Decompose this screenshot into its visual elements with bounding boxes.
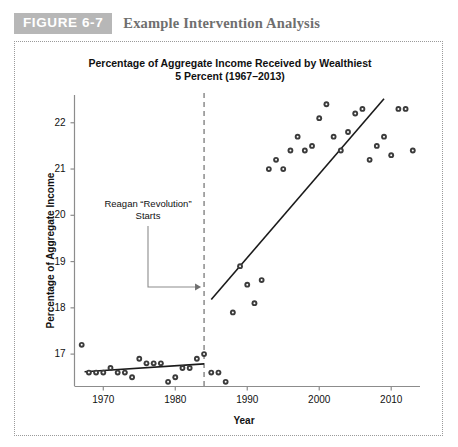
x-tick-label-1970: 1970 [83,394,123,405]
figure-root: FIGURE 6-7 Example Intervention Analysis… [0,0,458,447]
y-tick-label-22: 22 [44,117,66,128]
x-tick-label-1990: 1990 [227,394,267,405]
y-tick-label-21: 21 [44,163,66,174]
chart-title: Percentage of Aggregate Income Received … [60,57,400,83]
figure-caption-row: FIGURE 6-7 Example Intervention Analysis [14,13,320,34]
intervention-annotation-line-1: Reagan “Revolution” [88,198,208,210]
x-tick-label-2000: 2000 [299,394,339,405]
intervention-annotation: Reagan “Revolution” Starts [88,198,208,222]
figure-number-badge: FIGURE 6-7 [14,13,112,34]
x-tick-label-2010: 2010 [371,394,411,405]
chart-title-line-1: Percentage of Aggregate Income Received … [60,57,400,70]
intervention-annotation-line-2: Starts [88,210,208,222]
figure-caption-text: Example Intervention Analysis [123,15,320,32]
y-tick-label-19: 19 [44,256,66,267]
chart-title-line-2: 5 Percent (1967–2013) [60,70,400,83]
y-tick-label-20: 20 [44,209,66,220]
y-tick-label-17: 17 [44,348,66,359]
x-axis-label: Year [74,415,414,426]
y-tick-label-18: 18 [44,302,66,313]
x-tick-label-1980: 1980 [155,394,195,405]
figure-content-frame [14,41,443,436]
